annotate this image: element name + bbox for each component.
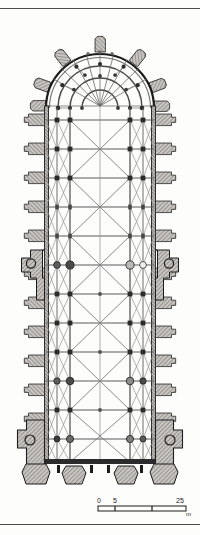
- scale-tick-label-0: 0: [97, 497, 101, 504]
- top-divider-rule: [0, 8, 200, 9]
- figure-page: 0 5 25 m: [0, 0, 200, 535]
- bottom-divider-rule: [0, 524, 200, 525]
- scale-bar: 0 5 25 m: [96, 496, 194, 518]
- cathedral-floor-plan: [0, 10, 200, 492]
- scale-tick-label-5: 5: [113, 497, 117, 504]
- scale-tick-label-25: 25: [176, 497, 184, 504]
- scale-bar-graphic: 0 5 25 m: [96, 496, 194, 518]
- nave-body: [22, 106, 179, 462]
- scale-unit-label: m: [186, 511, 191, 517]
- plan-drawing: [0, 10, 200, 492]
